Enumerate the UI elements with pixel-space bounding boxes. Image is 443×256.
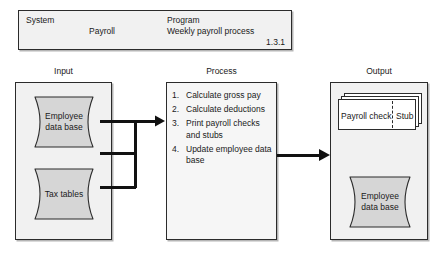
arrowhead-into-process — [155, 116, 165, 127]
flowchart-canvas: System Payroll Program Weekly payroll pr… — [0, 0, 443, 256]
arrowhead-into-output — [319, 149, 330, 161]
flow-connectors — [0, 0, 443, 256]
